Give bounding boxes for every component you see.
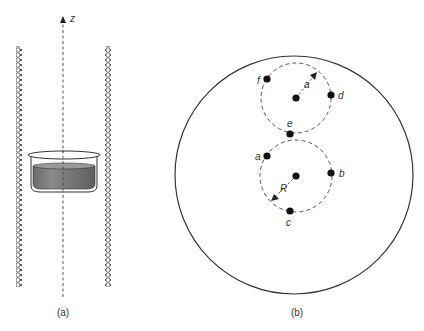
- center-lower: [292, 172, 299, 179]
- point-b: [327, 169, 334, 176]
- figure: z (a) a f d e R a: [0, 0, 424, 331]
- caption-a: (a): [57, 307, 69, 318]
- caption-b: (b): [291, 307, 303, 318]
- radius-a-label: a: [304, 79, 310, 90]
- center-upper: [292, 94, 299, 101]
- label-b: b: [339, 168, 345, 179]
- radius-R-arrow-icon: [271, 194, 279, 201]
- label-d: d: [338, 90, 344, 101]
- coil-right: [105, 46, 111, 287]
- panel-b: a f d e R a b c (b): [175, 56, 413, 318]
- z-axis-arrow-icon: [60, 16, 66, 23]
- z-axis-label: z: [69, 13, 75, 24]
- panel-a: z (a): [16, 13, 111, 318]
- point-c: [286, 207, 293, 214]
- label-a: a: [255, 151, 261, 162]
- coil-left: [16, 46, 22, 287]
- radius-R-label: R: [280, 183, 287, 194]
- label-e: e: [287, 118, 293, 129]
- label-f: f: [257, 75, 261, 86]
- dish: [28, 150, 100, 192]
- point-a: [263, 152, 270, 159]
- point-d: [327, 91, 334, 98]
- radius-a-arrow-icon: [310, 72, 317, 80]
- point-e: [286, 130, 293, 137]
- label-c: c: [286, 217, 291, 228]
- point-f: [263, 75, 270, 82]
